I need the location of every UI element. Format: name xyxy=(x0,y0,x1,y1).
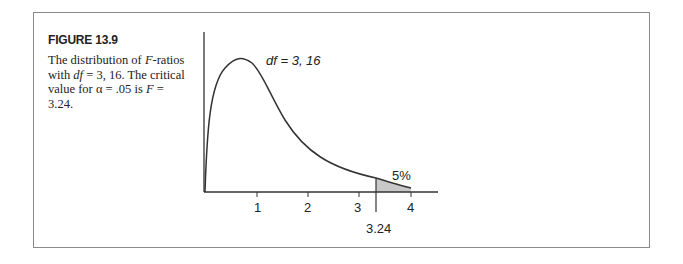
x-tick-1: 1 xyxy=(254,200,261,215)
tail-percent-label: 5% xyxy=(392,168,411,183)
x-tick-3: 3 xyxy=(354,200,361,215)
f-distribution-chart: 1 2 3 4 3.24 5% df = 3, 16 xyxy=(0,0,683,264)
f-curve xyxy=(205,59,411,192)
x-tick-4: 4 xyxy=(407,200,414,215)
df-label: df = 3, 16 xyxy=(266,53,321,68)
critical-value-label: 3.24 xyxy=(366,221,391,236)
x-tick-2: 2 xyxy=(304,200,311,215)
